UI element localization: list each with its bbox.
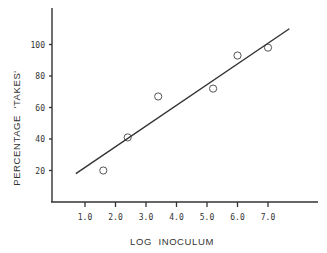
y-axis-title: PERCENTAGE 'TAKES' [11,70,22,186]
x-axis-title: LOG INOCULUM [130,236,214,247]
y-tick-label: 20 [35,167,45,176]
y-tick-label: 80 [35,72,45,81]
y-tick-label: 40 [35,135,45,144]
series [76,29,290,174]
x-tick-label: 4.0 [169,213,184,222]
x-tick-label: 1.0 [78,213,93,222]
x-ticks: 1.02.03.04.05.06.07.0 [78,202,276,222]
data-point-circle [234,52,241,59]
x-tick-label: 6.0 [230,213,245,222]
data-point-circle [155,93,162,100]
data-point-circle [210,85,217,92]
y-tick-label: 100 [31,41,46,50]
y-tick-label: 60 [35,104,45,113]
x-tick-label: 7.0 [261,213,276,222]
x-tick-label: 3.0 [139,213,154,222]
x-tick-label: 2.0 [108,213,123,222]
chart: 1.02.03.04.05.06.07.0 20406080100 LOG IN… [0,0,327,253]
x-tick-label: 5.0 [200,213,215,222]
y-ticks: 20406080100 [31,41,52,176]
fit-line [76,29,290,174]
data-point-circle [100,167,107,174]
